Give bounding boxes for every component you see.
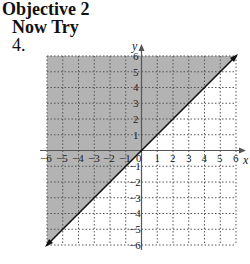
svg-text:−2: −2 — [129, 176, 141, 188]
svg-text:−5: −5 — [56, 152, 68, 164]
svg-text:6: 6 — [133, 50, 139, 62]
coordinate-graph: x y −6 −5 −4 −3 −2 −1 0 1 2 3 4 5 6 6 5 … — [0, 0, 250, 264]
svg-text:−2: −2 — [103, 152, 115, 164]
svg-text:−6: −6 — [129, 239, 141, 251]
y-axis-arrow-icon — [139, 44, 145, 51]
svg-text:2: 2 — [170, 152, 176, 164]
svg-text:−6: −6 — [40, 152, 52, 164]
svg-text:3: 3 — [133, 97, 139, 109]
svg-text:4: 4 — [133, 81, 139, 93]
svg-text:−5: −5 — [129, 223, 141, 235]
svg-text:−1: −1 — [129, 160, 141, 172]
svg-text:4: 4 — [202, 152, 208, 164]
svg-text:1: 1 — [155, 152, 161, 164]
svg-text:1: 1 — [133, 129, 139, 141]
svg-text:−4: −4 — [129, 207, 141, 219]
svg-text:−3: −3 — [129, 192, 141, 204]
svg-text:6: 6 — [233, 152, 239, 164]
svg-text:2: 2 — [133, 113, 139, 125]
svg-text:3: 3 — [186, 152, 192, 164]
svg-text:−3: −3 — [88, 152, 100, 164]
svg-text:−4: −4 — [72, 152, 84, 164]
x-axis-label: x — [242, 153, 249, 167]
svg-text:5: 5 — [133, 66, 139, 78]
svg-text:5: 5 — [217, 152, 223, 164]
